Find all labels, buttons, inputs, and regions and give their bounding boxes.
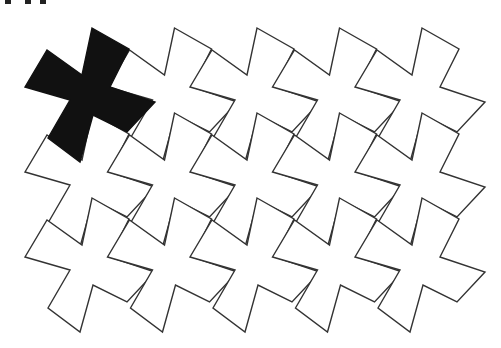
- tiling-svg: [0, 0, 501, 348]
- tessellation-figure: [0, 0, 501, 348]
- cropped-glyph: [40, 0, 46, 4]
- cropped-glyph: [5, 0, 11, 4]
- cropped-glyph: [25, 0, 31, 4]
